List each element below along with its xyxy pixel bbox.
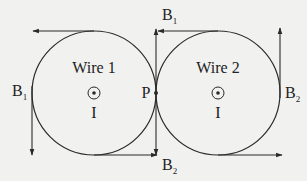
wire-2-label: Wire 2 [196,59,239,76]
label-b2-bottom: B2 [162,156,177,176]
label-b2-right: B2 [285,84,300,104]
label-b1-top: B1 [162,6,177,26]
wire-2-current-label: I [215,104,220,121]
wire-1-current-label: I [91,104,96,121]
current-out-of-page-icon [212,87,224,99]
current-out-of-page-icon [88,87,100,99]
magnetic-field-diagram: Wire 1 I Wire 2 I P B1 B1 B2 B2 [0,0,307,181]
wire-1-label: Wire 1 [72,59,115,76]
point-p-label: P [142,84,151,101]
wire-2-group: Wire 2 I [156,31,280,155]
wire-1-group: Wire 1 I [32,31,156,155]
label-b1-left: B1 [12,82,27,102]
